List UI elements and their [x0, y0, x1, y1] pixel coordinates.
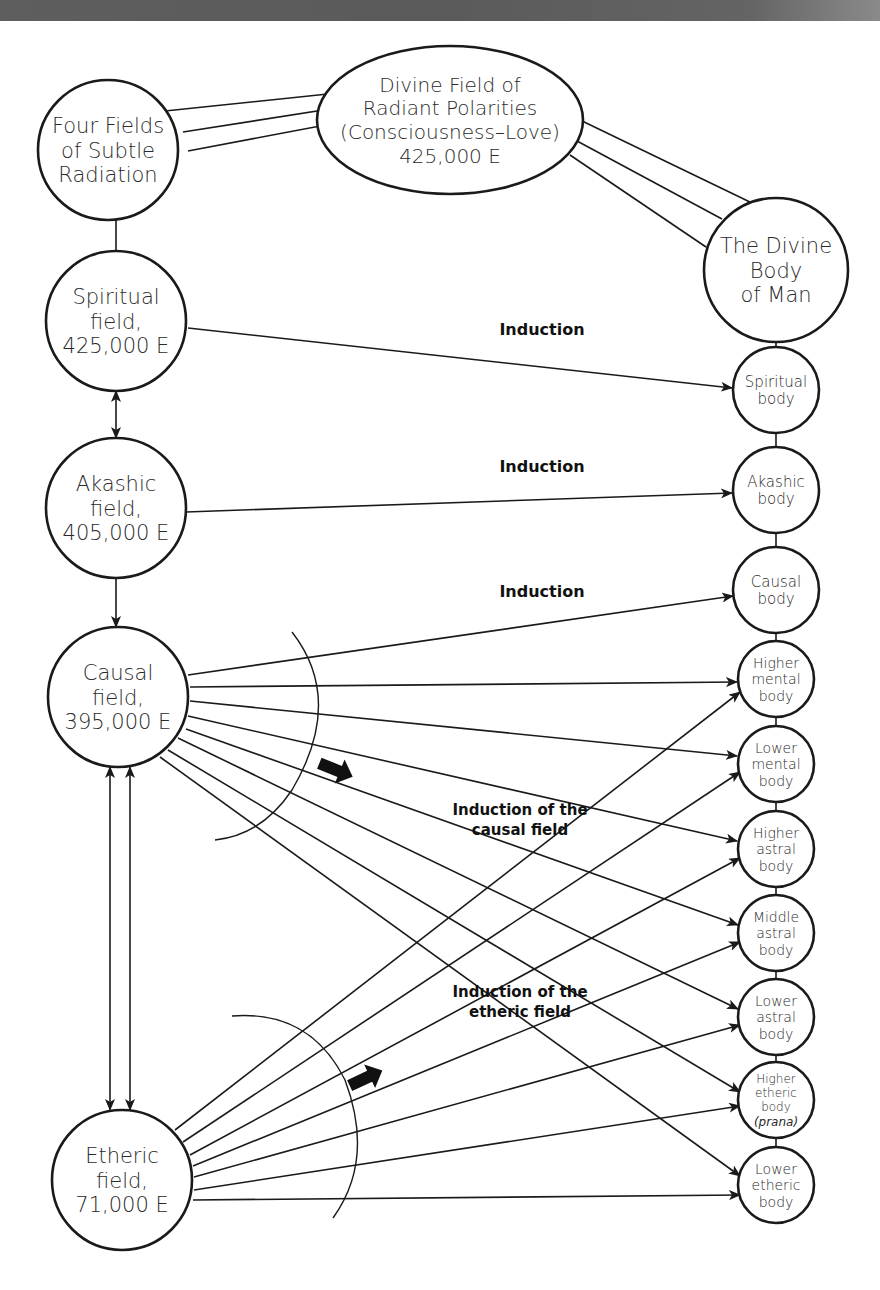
arrow-line: [160, 757, 740, 1176]
arrow-line: [193, 942, 740, 1166]
block-arrow-icon: [344, 1059, 388, 1098]
node-label: 405,000 E: [63, 521, 170, 545]
node-divine-body: The DivineBodyof Man: [704, 198, 848, 342]
label-induction-etheric: Induction of theetheric field: [452, 983, 587, 1021]
induction-label: Induction: [499, 320, 584, 339]
block-arrow-icon: [314, 751, 357, 789]
node-lower-mental-body: Lowermentalbody: [738, 726, 814, 802]
induction-arrows: [110, 328, 740, 1200]
arrow-line: [188, 328, 732, 388]
node-spiritual-field: Spiritualfield,425,000 E: [46, 251, 186, 391]
arrow-line: [194, 1025, 740, 1177]
node-four-fields: Four Fieldsof SubtleRadiation: [38, 80, 178, 220]
node-label: field,: [90, 497, 142, 521]
node-label: field,: [90, 310, 142, 334]
node-akashic-field: Akashicfield,405,000 E: [46, 438, 186, 578]
arrow-line: [188, 596, 733, 675]
node-label: body: [759, 858, 794, 874]
node-label: Higher: [753, 655, 799, 671]
node-label: of Man: [740, 283, 811, 307]
node-label: mental: [751, 756, 800, 772]
field-nodes: Four Fieldsof SubtleRadiationDivine Fiel…: [38, 46, 848, 1250]
node-label: body: [759, 1194, 794, 1210]
node-label: (Consciousness–Love): [340, 120, 560, 144]
flow-arrows: [314, 751, 387, 1097]
arrow-line: [190, 858, 740, 1155]
node-label: Divine Field of: [379, 73, 520, 97]
connector-line: [570, 155, 706, 247]
node-label: 425,000 E: [399, 144, 501, 168]
node-middle-astral-body: Middleastralbody: [738, 895, 814, 971]
node-label: 395,000 E: [65, 710, 172, 734]
label-induction-causal: Induction of thecausal field: [452, 801, 587, 839]
node-label: body: [759, 942, 794, 958]
node-higher-etheric-body: Higherethericbody(prana): [738, 1062, 814, 1138]
node-label: body: [757, 490, 794, 508]
induction-label: Induction: [499, 582, 584, 601]
node-label: of Subtle: [61, 139, 155, 163]
node-spiritual-body: Spiritualbody: [733, 347, 819, 433]
node-etheric-field: Ethericfield,71,000 E: [52, 1110, 192, 1250]
node-label: 71,000 E: [75, 1193, 168, 1217]
node-label: Radiant Polarities: [363, 96, 537, 120]
node-label: The Divine: [720, 234, 832, 258]
node-label: etheric: [755, 1086, 797, 1100]
connector-line: [580, 120, 752, 203]
node-label: (prana): [754, 1115, 798, 1129]
node-label: Akashic: [76, 472, 157, 496]
induction-label: Induction of the: [452, 983, 587, 1001]
node-label: body: [759, 1026, 794, 1042]
node-label: body: [757, 390, 794, 408]
induction-labels: InductionInductionInductionInduction of …: [452, 320, 587, 1021]
node-label: mental: [751, 671, 800, 687]
arrow-line: [190, 701, 737, 756]
connector-lines: [116, 92, 776, 1147]
node-label: field,: [96, 1169, 148, 1193]
label-induction-2: Induction: [499, 457, 584, 476]
node-label: body: [759, 688, 794, 704]
node-label: etheric: [752, 1177, 801, 1193]
node-divine-field: Divine Field ofRadiant Polarities(Consci…: [317, 46, 583, 194]
node-label: body: [759, 773, 794, 789]
arrow-line: [190, 682, 737, 687]
node-label: Etheric: [85, 1144, 159, 1168]
node-label: Body: [750, 259, 802, 283]
node-label: Lower: [755, 993, 797, 1009]
node-label: body: [757, 590, 794, 608]
node-higher-mental-body: Highermentalbody: [738, 641, 814, 717]
node-lower-astral-body: Lowerastralbody: [738, 979, 814, 1055]
node-label: astral: [756, 841, 796, 857]
node-label: Spiritual: [745, 373, 807, 391]
node-causal-body: Causalbody: [733, 547, 819, 633]
node-label: Causal: [83, 661, 154, 685]
arrow-line: [188, 716, 737, 841]
label-induction-1: Induction: [499, 320, 584, 339]
node-label: Lower: [755, 740, 797, 756]
induction-label: causal field: [472, 821, 568, 839]
node-causal-field: Causalfield,395,000 E: [48, 627, 188, 767]
node-label: Akashic: [747, 473, 805, 491]
arrow-line: [193, 1195, 740, 1200]
arrow-line: [194, 1106, 740, 1190]
node-label: astral: [756, 1009, 796, 1025]
induction-label: Induction: [499, 457, 584, 476]
node-lower-etheric-body: Lowerethericbody: [738, 1147, 814, 1223]
induction-label: etheric field: [469, 1003, 571, 1021]
node-label: body: [761, 1100, 791, 1114]
node-label: Lower: [755, 1161, 797, 1177]
node-label: Higher: [753, 825, 799, 841]
node-label: 425,000 E: [63, 334, 170, 358]
arrow-line: [178, 738, 738, 1009]
node-label: Radiation: [58, 163, 157, 187]
induction-label: Induction of the: [452, 801, 587, 819]
node-label: Causal: [751, 573, 801, 591]
node-label: Middle: [753, 909, 799, 925]
node-label: astral: [756, 925, 796, 941]
node-akashic-body: Akashicbody: [733, 447, 819, 533]
etheric-arc: [232, 1016, 358, 1218]
node-label: Higher: [756, 1072, 796, 1086]
arrow-line: [175, 692, 740, 1130]
node-higher-astral-body: Higherastralbody: [738, 811, 814, 887]
node-label: Four Fields: [52, 114, 164, 138]
node-label: field,: [92, 686, 144, 710]
